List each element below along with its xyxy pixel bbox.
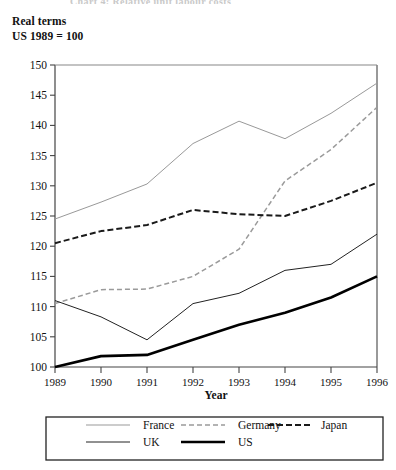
series-line-germany (55, 107, 377, 303)
x-tick-label: 1995 (320, 376, 343, 388)
x-tick-label: 1992 (182, 376, 204, 388)
legend-label-uk: UK (143, 436, 160, 448)
x-tick-label: 1993 (228, 376, 251, 388)
chart-figure: Chart 4: Relative unit labour costs Real… (0, 0, 396, 470)
legend-label-japan: Japan (321, 419, 347, 432)
x-tick-label: 1991 (136, 376, 158, 388)
x-axis-title: Year (205, 389, 228, 401)
y-tick-label: 150 (30, 59, 48, 71)
y-tick-label: 105 (30, 331, 48, 343)
legend-label-france: France (143, 419, 174, 431)
x-axis-ticks: 19891990199119921993199419951996 (44, 367, 389, 388)
y-tick-label: 120 (30, 240, 48, 252)
x-tick-label: 1996 (366, 376, 389, 388)
y-tick-label: 115 (30, 270, 47, 282)
legend-label-germany: Germany (238, 419, 281, 432)
y-tick-label: 140 (30, 119, 48, 131)
y-tick-label: 100 (30, 361, 48, 373)
x-tick-label: 1990 (90, 376, 113, 388)
line-chart-svg: 100105110115120125130135140145150 198919… (0, 0, 396, 470)
series-line-japan (55, 183, 377, 243)
series-line-uk (55, 234, 377, 340)
legend-label-us: US (238, 436, 253, 448)
y-tick-label: 130 (30, 180, 48, 192)
legend-entries: FranceGermanyJapanUKUS (86, 419, 347, 448)
y-tick-label: 135 (30, 150, 48, 162)
y-tick-label: 125 (30, 210, 48, 222)
x-tick-label: 1989 (44, 376, 67, 388)
y-tick-label: 110 (30, 301, 47, 313)
y-tick-label: 145 (30, 89, 48, 101)
y-axis-ticks: 100105110115120125130135140145150 (30, 59, 55, 373)
series-lines (55, 83, 377, 367)
x-tick-label: 1994 (274, 376, 297, 388)
